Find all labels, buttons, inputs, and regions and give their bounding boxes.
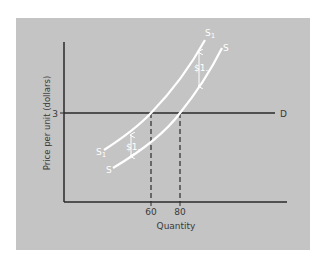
gap-label-upper: $1. (194, 63, 208, 73)
x-tick-80: 80 (174, 207, 186, 217)
gap-label-lower: $1. (126, 142, 140, 152)
supply-demand-chart: 3 60 80 Quantity Price per unit (dollars… (0, 0, 324, 264)
s-top-label: S (223, 43, 229, 53)
y-tick-3: 3 (52, 109, 58, 119)
x-tick-60: 60 (145, 207, 157, 217)
supply-curve-s1 (104, 40, 205, 150)
demand-label: D (280, 109, 287, 119)
x-axis-label: Quantity (157, 221, 197, 231)
y-axis-label: Price per unit (dollars) (42, 76, 52, 171)
s1-top-label: S1 (205, 28, 215, 40)
s-bottom-label: S (106, 165, 112, 175)
